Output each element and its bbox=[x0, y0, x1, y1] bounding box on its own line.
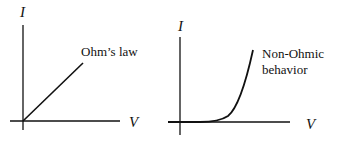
ohmic-graph: I V Ohm’s law bbox=[10, 4, 140, 130]
iv-diagram: I V Ohm’s law I V Non-Ohmic behavior bbox=[0, 0, 341, 141]
non-ohmic-curve bbox=[168, 50, 253, 122]
right-y-axis-label: I bbox=[177, 18, 184, 34]
left-x-axis-label: V bbox=[129, 114, 140, 130]
non-ohmic-graph: I V Non-Ohmic behavior bbox=[168, 18, 324, 135]
ohms-law-label: Ohm’s law bbox=[81, 44, 138, 59]
non-ohmic-label-line2: behavior bbox=[262, 62, 308, 77]
ohmic-line bbox=[23, 63, 83, 121]
non-ohmic-label-line1: Non-Ohmic bbox=[262, 46, 324, 61]
right-x-axis-label: V bbox=[306, 116, 317, 132]
diagram-svg: I V Ohm’s law I V Non-Ohmic behavior bbox=[0, 0, 341, 141]
left-y-axis-label: I bbox=[19, 4, 26, 20]
